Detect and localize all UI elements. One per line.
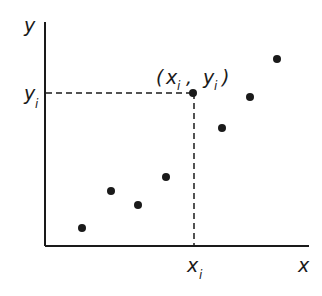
scatter-diagram: y x y i x i ( x i , y i )	[0, 0, 322, 296]
xi-tick-subscript: i	[199, 268, 203, 282]
data-point	[273, 55, 281, 63]
data-point	[162, 173, 170, 181]
data-point	[107, 187, 115, 195]
label-y-subscript: i	[214, 79, 218, 93]
highlighted-point-label: ( x i , y i )	[156, 66, 229, 93]
label-x-subscript: i	[177, 79, 181, 93]
data-point	[246, 93, 254, 101]
x-axis-label: x	[297, 254, 310, 276]
yi-tick-subscript: i	[35, 97, 39, 111]
y-axis-label: y	[23, 14, 36, 36]
data-point	[78, 224, 86, 232]
label-close-paren: )	[220, 66, 229, 88]
highlighted-point	[189, 89, 197, 97]
xi-tick-label: x	[186, 254, 199, 276]
data-point	[218, 124, 226, 132]
label-comma: ,	[186, 66, 192, 88]
label-open-paren: (	[156, 66, 165, 88]
data-point	[134, 201, 142, 209]
